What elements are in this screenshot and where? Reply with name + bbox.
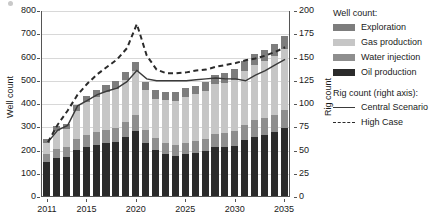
bar	[132, 62, 139, 196]
bar-segment-water-injection	[192, 141, 199, 153]
bar-segment-exploration	[211, 75, 218, 84]
legend-item-label: Exploration	[361, 22, 406, 32]
legend-item-high-case[interactable]: High Case	[333, 117, 437, 127]
bar-segment-gas-production	[83, 102, 90, 135]
bar-segment-water-injection	[93, 132, 100, 145]
bar	[112, 81, 119, 196]
legend-swatch-icon	[333, 39, 355, 46]
legend-item-gas-production[interactable]: Gas production	[333, 37, 437, 47]
bar-segment-oil-production	[182, 154, 189, 196]
bar	[63, 124, 70, 197]
bar-segment-exploration	[271, 44, 278, 57]
y-tick-label-left: 0	[10, 191, 36, 201]
bar-segment-water-injection	[261, 118, 268, 135]
y-tick-label-right: 100	[299, 98, 325, 108]
bar	[122, 72, 129, 196]
legend: Well count: ExplorationGas productionWat…	[333, 8, 437, 132]
legend-well-rows: ExplorationGas productionWater injection…	[333, 22, 437, 77]
x-tick-mark	[47, 199, 48, 202]
y-tick-label-left: 600	[10, 52, 36, 62]
bar-segment-exploration	[132, 62, 139, 71]
bar-segment-water-injection	[122, 122, 129, 137]
x-tick-label: 2015	[76, 204, 96, 214]
bar-segment-oil-production	[43, 162, 50, 196]
legend-item-label: Oil production	[361, 67, 417, 77]
bar-segment-water-injection	[172, 145, 179, 156]
bar-segment-water-injection	[241, 125, 248, 140]
bar-segment-exploration	[122, 72, 129, 80]
y-tick-mark-right	[294, 58, 297, 59]
bar-segment-water-injection	[251, 120, 258, 136]
bar	[221, 73, 228, 196]
bar-segment-exploration	[261, 50, 268, 61]
bar-segment-gas-production	[251, 65, 258, 120]
bar-segment-water-injection	[271, 115, 278, 132]
bar	[192, 86, 199, 196]
bar-segment-gas-production	[63, 129, 70, 148]
bar-segment-water-injection	[53, 149, 60, 158]
bar-segment-oil-production	[102, 143, 109, 196]
bar-segment-oil-production	[152, 150, 159, 196]
bar-segment-water-injection	[83, 135, 90, 147]
y-tick-label-right: 175	[299, 28, 325, 38]
bar-segment-exploration	[241, 61, 248, 71]
legend-item-oil-production[interactable]: Oil production	[333, 67, 437, 77]
bar-segment-water-injection	[182, 143, 189, 155]
bar-segment-oil-production	[172, 156, 179, 196]
bar-segment-gas-production	[142, 90, 149, 130]
bar-segment-water-injection	[202, 139, 209, 152]
x-tick-label: 2030	[225, 204, 245, 214]
bar-segment-gas-production	[261, 61, 268, 118]
bar	[241, 61, 248, 196]
bar	[182, 88, 189, 196]
y-tick-label-left: 400	[10, 98, 36, 108]
x-tick-label: 2020	[126, 204, 146, 214]
bar-segment-oil-production	[162, 154, 169, 196]
y-tick-mark-left	[37, 127, 40, 128]
bar	[93, 90, 100, 196]
legend-item-exploration[interactable]: Exploration	[333, 22, 437, 32]
y-tick-label-left: 300	[10, 121, 36, 131]
legend-swatch-icon	[333, 54, 355, 61]
bar-segment-exploration	[93, 90, 100, 97]
bar	[261, 50, 268, 196]
bar-segment-gas-production	[132, 71, 139, 115]
y-axis-right: 0255075100125150175200	[294, 0, 322, 220]
bar	[102, 85, 109, 196]
bar-segment-oil-production	[93, 145, 100, 196]
bar-segment-water-injection	[73, 139, 80, 150]
bar	[162, 92, 169, 196]
y-tick-mark-left	[37, 11, 40, 12]
y-tick-mark-right	[294, 174, 297, 175]
chart-figure: Well count Rig count 0100200300400500600…	[0, 0, 437, 220]
bar-segment-exploration	[112, 81, 119, 89]
legend-header-rig-count: Rig count (right axis):	[333, 88, 437, 98]
legend-item-central-scenario[interactable]: Central Scenario	[333, 102, 437, 112]
y-tick-mark-left	[37, 58, 40, 59]
bar-segment-exploration	[231, 69, 238, 79]
bar-segment-oil-production	[53, 158, 60, 196]
bar-segment-oil-production	[202, 151, 209, 196]
x-tick-label: 2011	[37, 204, 56, 214]
legend-item-water-injection[interactable]: Water injection	[333, 52, 437, 62]
x-tick-label: 2025	[175, 204, 195, 214]
bar	[142, 82, 149, 196]
legend-rig-rows: Central ScenarioHigh Case	[333, 102, 437, 127]
bar-segment-gas-production	[93, 97, 100, 132]
x-tick-mark	[235, 199, 236, 202]
bar	[271, 44, 278, 196]
bar-segment-gas-production	[172, 101, 179, 145]
bar-segment-oil-production	[231, 146, 238, 196]
bar-segment-exploration	[142, 82, 149, 90]
bar-segment-gas-production	[53, 131, 60, 149]
bar-segment-gas-production	[241, 71, 248, 124]
y-tick-mark-left	[37, 34, 40, 35]
bar-segment-gas-production	[112, 89, 119, 128]
bar-segment-exploration	[172, 92, 179, 100]
bar-group	[42, 11, 289, 196]
bar-segment-oil-production	[83, 147, 90, 196]
bar	[211, 75, 218, 196]
bar-segment-exploration	[251, 54, 258, 65]
bar-segment-water-injection	[211, 134, 218, 147]
y-tick-mark-left	[37, 104, 40, 105]
